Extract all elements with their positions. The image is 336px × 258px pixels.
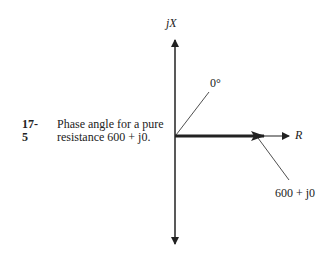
vector-label: 600 + j0 [275, 186, 315, 201]
angle-label: 0° [210, 76, 221, 91]
vertical-axis-label: jX [166, 16, 177, 31]
phasor-diagram [0, 0, 336, 258]
horizontal-axis-label: R [295, 128, 302, 143]
vector-pointer-line [258, 138, 289, 180]
angle-pointer-line [176, 92, 209, 135]
